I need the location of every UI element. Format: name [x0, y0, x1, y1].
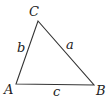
- side-label-c: c: [53, 84, 61, 99]
- vertex-label-a: A: [3, 82, 13, 97]
- side-label-b: b: [17, 40, 25, 55]
- vertex-label-c: C: [29, 4, 39, 19]
- triangle-diagram: C A B b a c: [0, 0, 111, 101]
- triangle-abc: [16, 21, 94, 85]
- side-label-a: a: [66, 37, 74, 52]
- vertex-label-b: B: [95, 83, 106, 98]
